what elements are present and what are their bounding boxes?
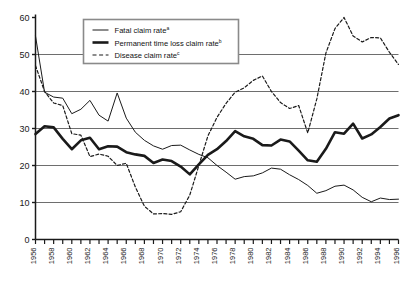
legend-superscript: a <box>166 25 169 31</box>
x-tick-label: 1988 <box>319 248 328 265</box>
x-axis-ticks <box>36 240 399 245</box>
y-axis-tick-labels: 0102030405060 <box>19 13 29 245</box>
x-tick-label: 1970 <box>156 248 165 265</box>
y-tick-label: 20 <box>19 161 29 171</box>
legend-label: Fatal claim ratea <box>115 25 170 35</box>
x-tick-label: 1992 <box>355 248 364 265</box>
x-tick-label: 1990 <box>337 248 346 265</box>
line-chart: 0102030405060 19561958196019621964196619… <box>0 0 415 287</box>
x-tick-label: 1960 <box>65 248 74 265</box>
x-axis-tick-labels: 1956195819601962196419661968197019721974… <box>29 247 401 264</box>
x-tick-label: 1972 <box>174 248 183 265</box>
x-tick-label: 1980 <box>246 247 255 264</box>
y-tick-label: 10 <box>19 198 29 208</box>
gridlines <box>36 55 399 203</box>
x-tick-label: 1956 <box>29 248 38 265</box>
x-tick-label: 1984 <box>283 248 292 265</box>
y-tick-label: 50 <box>19 50 29 60</box>
y-tick-label: 0 <box>24 235 29 245</box>
y-tick-label: 30 <box>19 124 29 134</box>
chart-legend: Fatal claim rateaPermanent time loss cla… <box>84 20 239 64</box>
x-tick-label: 1994 <box>373 248 382 265</box>
x-tick-label: 1966 <box>119 248 128 265</box>
x-tick-label: 1974 <box>192 248 201 265</box>
y-tick-label: 40 <box>19 87 29 97</box>
x-tick-label: 1978 <box>228 248 237 265</box>
legend-label: Disease claim ratec <box>115 50 180 60</box>
x-tick-label: 1958 <box>47 248 56 265</box>
legend-superscript: b <box>219 38 222 44</box>
legend-label: Permanent time loss claim rateb <box>115 38 222 48</box>
x-tick-label: 1976 <box>210 248 219 265</box>
x-tick-label: 1982 <box>264 248 273 265</box>
x-tick-label: 1962 <box>83 248 92 265</box>
y-tick-label: 60 <box>19 13 29 23</box>
chart-container: 0102030405060 19561958196019621964196619… <box>0 0 415 287</box>
x-tick-label: 1986 <box>301 248 310 265</box>
x-tick-label: 1964 <box>101 248 110 265</box>
x-tick-label: 1968 <box>137 248 146 265</box>
x-tick-label: 1996 <box>392 248 401 265</box>
